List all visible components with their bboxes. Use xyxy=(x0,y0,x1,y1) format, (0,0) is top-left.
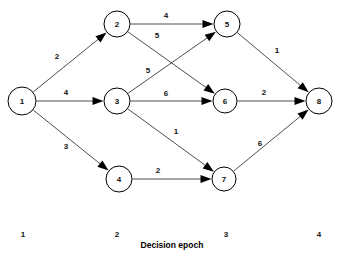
decision-epoch-axis: 1234Decision epoch xyxy=(21,230,322,251)
edge-weight-label: 1 xyxy=(275,46,280,55)
edge-arrowhead xyxy=(204,84,215,94)
edge-arrowhead xyxy=(203,20,214,28)
edge-1-to-2: 2 xyxy=(33,33,106,92)
nodes-layer: 12345678 xyxy=(8,11,332,192)
node-label: 1 xyxy=(20,97,25,106)
node-label: 3 xyxy=(115,97,120,106)
edge-line xyxy=(33,110,101,165)
node-3[interactable]: 3 xyxy=(104,88,130,114)
edge-weight-label: 5 xyxy=(146,66,151,75)
edge-line xyxy=(128,37,209,93)
node-1[interactable]: 1 xyxy=(8,87,36,115)
edge-line xyxy=(237,33,301,87)
edge-line xyxy=(128,32,208,89)
edge-7-to-8: 6 xyxy=(234,110,309,172)
edge-weight-label: 2 xyxy=(55,52,60,61)
edge-weight-label: 2 xyxy=(156,166,161,175)
node-label: 4 xyxy=(117,175,122,184)
network-diagram-canvas: 243455612126 12345678 1234Decision epoch xyxy=(0,0,338,258)
edge-line xyxy=(33,38,99,92)
node-label: 2 xyxy=(115,20,120,29)
edge-4-to-7: 2 xyxy=(133,166,212,184)
node-4[interactable]: 4 xyxy=(106,166,132,192)
edge-arrowhead xyxy=(203,162,214,172)
edge-arrowhead xyxy=(298,82,309,92)
edge-arrowhead xyxy=(95,33,106,43)
edge-arrowhead xyxy=(97,161,108,171)
edge-weight-label: 6 xyxy=(258,139,263,148)
edge-weight-label: 6 xyxy=(164,89,169,98)
edge-weight-label: 5 xyxy=(155,31,160,40)
epoch-tick-4: 4 xyxy=(317,230,322,239)
axis-caption: Decision epoch xyxy=(141,240,204,250)
edge-weight-label: 3 xyxy=(64,142,69,151)
edge-3-to-7: 1 xyxy=(128,109,214,172)
epoch-tick-1: 1 xyxy=(21,230,26,239)
edge-5-to-8: 1 xyxy=(237,33,308,93)
edge-weight-label: 1 xyxy=(174,127,179,136)
edge-arrowhead xyxy=(205,32,216,42)
edge-arrowhead xyxy=(93,97,104,105)
node-label: 8 xyxy=(317,97,322,106)
edge-weight-label: 4 xyxy=(164,11,169,20)
node-5[interactable]: 5 xyxy=(214,11,240,37)
edge-3-to-6: 6 xyxy=(131,89,213,106)
edge-arrowhead xyxy=(201,175,212,183)
epoch-tick-2: 2 xyxy=(115,230,120,239)
edge-line xyxy=(128,109,207,166)
node-label: 6 xyxy=(223,97,228,106)
node-2[interactable]: 2 xyxy=(104,11,130,37)
edge-arrowhead xyxy=(295,97,306,105)
node-7[interactable]: 7 xyxy=(212,167,236,191)
edge-arrowhead xyxy=(202,97,213,105)
edge-weight-label: 4 xyxy=(64,88,69,97)
epoch-tick-3: 3 xyxy=(224,230,229,239)
edge-1-to-3: 4 xyxy=(37,88,104,106)
node-6[interactable]: 6 xyxy=(213,89,237,113)
edge-line xyxy=(234,115,302,171)
edge-2-to-5: 4 xyxy=(131,11,214,29)
node-label: 5 xyxy=(225,20,230,29)
edge-1-to-4: 3 xyxy=(33,110,108,170)
node-8[interactable]: 8 xyxy=(306,88,332,114)
node-label: 7 xyxy=(222,175,227,184)
edge-6-to-8: 2 xyxy=(238,88,306,106)
network-diagram-figure: 243455612126 12345678 1234Decision epoch xyxy=(0,0,338,258)
edges-layer: 243455612126 xyxy=(33,11,308,184)
edge-arrowhead xyxy=(298,110,309,120)
edge-weight-label: 2 xyxy=(262,88,267,97)
